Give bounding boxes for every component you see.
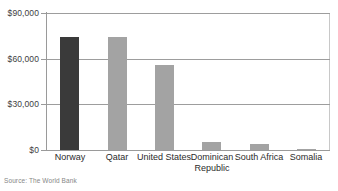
bar xyxy=(60,37,79,150)
bar xyxy=(155,65,174,150)
bar xyxy=(108,37,127,150)
bar xyxy=(202,142,221,150)
bar-chart-figure: $90,000$60,000$30,000$0 NorwayQatarUnite… xyxy=(0,0,338,191)
source-note: Source: The World Bank xyxy=(4,177,77,184)
bar xyxy=(297,149,316,150)
x-axis-category-label: Somalia xyxy=(275,152,337,163)
bar xyxy=(250,144,269,150)
